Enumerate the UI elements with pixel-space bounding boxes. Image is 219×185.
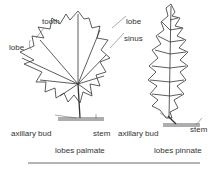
leaf-diagram [0,0,219,185]
caption-palmate: lobes palmate [55,147,105,155]
label-lobe-left: lobe [9,44,24,52]
label-axillary-bud-right: axillary bud [118,130,158,138]
label-stem-left: stem [93,130,110,138]
label-sinus: sinus [124,35,143,43]
palmate-leaf [20,11,110,120]
caption-pinnate: lobes pinnate [154,147,202,155]
label-axillary-bud-left: axillary bud [11,130,51,138]
pinnate-leaf [148,4,200,126]
label-stem-right: stem [190,126,207,134]
label-lobe-right: lobe [126,18,141,26]
label-tooth: tooth [42,18,60,26]
